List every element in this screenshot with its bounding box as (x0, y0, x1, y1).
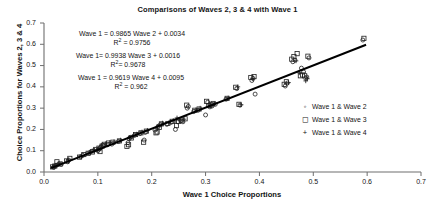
x-axis-ticks (44, 172, 421, 176)
x-tick-label: 0.5 (301, 178, 325, 185)
y-tick-label: 0.2 (14, 125, 36, 132)
trendline (51, 45, 366, 168)
x-tick-label: 0.4 (247, 178, 271, 185)
x-tick-label: 0.3 (194, 178, 218, 185)
regression-line (51, 45, 366, 168)
x-tick-label: 0.6 (355, 178, 379, 185)
x-tick-label: 0.0 (32, 178, 56, 185)
scatter-chart-figure: Comparisons of Waves 2, 3 & 4 with Wave … (0, 0, 435, 206)
y-tick-label: 0.7 (14, 19, 36, 26)
y-tick-label: 0.4 (14, 82, 36, 89)
x-tick-label: 0.7 (409, 178, 433, 185)
data-point (253, 92, 257, 96)
y-tick-label: 0.3 (14, 104, 36, 111)
x-tick-label: 0.1 (86, 178, 110, 185)
y-tick-label: 0.6 (14, 40, 36, 47)
y-tick-label: 0.1 (14, 146, 36, 153)
x-tick-label: 0.2 (140, 178, 164, 185)
y-tick-label: 0.5 (14, 61, 36, 68)
y-tick-label: 0.0 (14, 168, 36, 175)
plot-area (0, 0, 435, 206)
y-axis-ticks (40, 23, 44, 172)
data-point (204, 113, 208, 117)
